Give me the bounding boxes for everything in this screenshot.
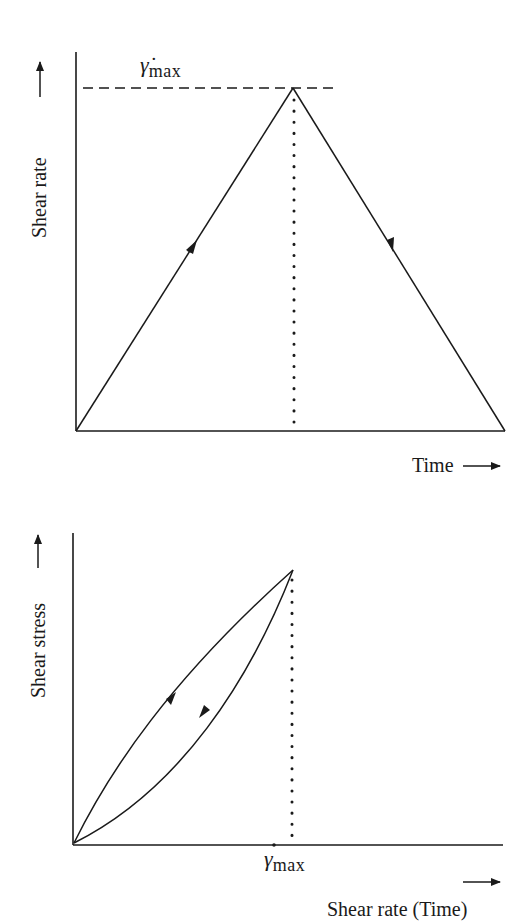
ramp-up-line: [76, 88, 293, 431]
down-curve-arrowhead: [199, 705, 210, 718]
up-curve-arrowhead: [166, 692, 176, 705]
downward-curve: [74, 570, 293, 843]
top-x-axis-label: Time: [412, 454, 454, 477]
ramp-down-line: [293, 88, 505, 431]
gamma-dot-symbol: γ̇: [140, 52, 149, 77]
gamma-symbol: γ: [264, 846, 273, 871]
ramp-up-arrowhead: [186, 240, 197, 254]
gamma-dot-max-label: γ̇max: [140, 52, 181, 82]
max-subscript: max: [149, 61, 182, 81]
max-subscript: max: [273, 855, 306, 875]
bottom-y-axis-label: Shear stress: [27, 603, 50, 698]
bottom-x-axis-label: Shear rate (Time): [327, 898, 467, 921]
ramp-down-arrowhead: [387, 237, 394, 252]
top-chart: [40, 52, 505, 466]
gamma-max-label: γmax: [264, 846, 305, 876]
bottom-chart: [38, 533, 503, 882]
upward-curve: [74, 570, 293, 843]
top-y-axis-label: Shear rate: [28, 157, 51, 238]
